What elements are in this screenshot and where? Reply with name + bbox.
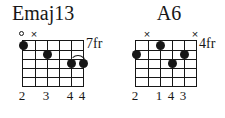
fret-line: [136, 59, 196, 60]
finger-dot: [19, 41, 28, 50]
chord-name-label: Emaj13: [0, 1, 112, 25]
finger-number-label: 3: [177, 88, 189, 104]
finger-dot: [180, 50, 189, 59]
string-line: [35, 41, 36, 86]
finger-number-label: 3: [40, 88, 52, 104]
string-line: [148, 41, 149, 86]
fret-line: [23, 77, 83, 78]
finger-dot: [168, 59, 177, 68]
finger-number-label: 4: [64, 88, 76, 104]
fret-line: [136, 68, 196, 69]
chord-diagram-emaj13: Emaj13 7fr 2344: [0, 0, 112, 118]
finger-numbers-row: 2344: [22, 88, 82, 104]
finger-numbers-row: 2143: [135, 88, 195, 104]
partial-barre-arc: [70, 55, 86, 63]
fret-line: [136, 77, 196, 78]
fret-line: [23, 50, 83, 51]
fret-position-label: 7fr: [86, 36, 102, 52]
string-line: [184, 41, 185, 86]
finger-number-label: 4: [165, 88, 177, 104]
muted-string-icon: [142, 29, 152, 40]
string-markers-row: [22, 29, 82, 40]
chord-chart-sheet: Emaj13 7fr 2344 A6 4fr 2143: [0, 0, 225, 118]
finger-dot: [132, 50, 141, 59]
muted-string-icon: [29, 29, 39, 40]
string-line: [47, 41, 48, 86]
chord-name-label: A6: [113, 1, 225, 25]
finger-number-label: 4: [76, 88, 88, 104]
open-string-icon: [17, 29, 27, 40]
finger-dot: [43, 50, 52, 59]
string-line: [59, 41, 60, 86]
fretboard-grid: [22, 40, 84, 87]
fret-position-label: 4fr: [199, 36, 215, 52]
finger-number-label: 2: [16, 88, 28, 104]
finger-number-label: 2: [129, 88, 141, 104]
fret-line: [23, 68, 83, 69]
chord-diagram-a6: A6 4fr 2143: [113, 0, 225, 118]
fretboard-grid: [135, 40, 197, 87]
string-markers-row: [135, 29, 195, 40]
finger-dot: [156, 41, 165, 50]
finger-number-label: 1: [153, 88, 165, 104]
